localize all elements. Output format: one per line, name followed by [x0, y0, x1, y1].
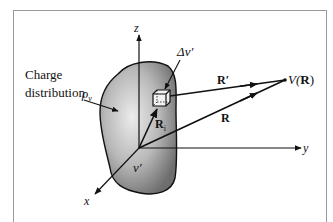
charge-label: Charge: [25, 67, 63, 82]
y-axis-label: y: [302, 141, 309, 155]
r-arrowhead-icon: [240, 93, 257, 101]
charge-distribution-diagram: Charge distribution ρv z y x Δv′ v′ R′ R…: [0, 0, 333, 222]
delta-v-prime-label: Δv′: [176, 44, 193, 59]
volume-element-cube-icon: [153, 90, 170, 106]
x-axis-label: x: [83, 194, 90, 208]
field-point-dot: [283, 78, 287, 82]
r-prime-label: R′: [217, 73, 229, 87]
rho-label: ρv: [81, 86, 92, 103]
distribution-label: distribution: [25, 85, 85, 100]
r-label: R: [221, 111, 230, 125]
field-point-label: V(R): [288, 72, 314, 87]
r-prime-arrowhead-icon: [240, 84, 257, 86]
z-axis-label: z: [133, 21, 139, 35]
volume-label: v′: [133, 160, 142, 175]
